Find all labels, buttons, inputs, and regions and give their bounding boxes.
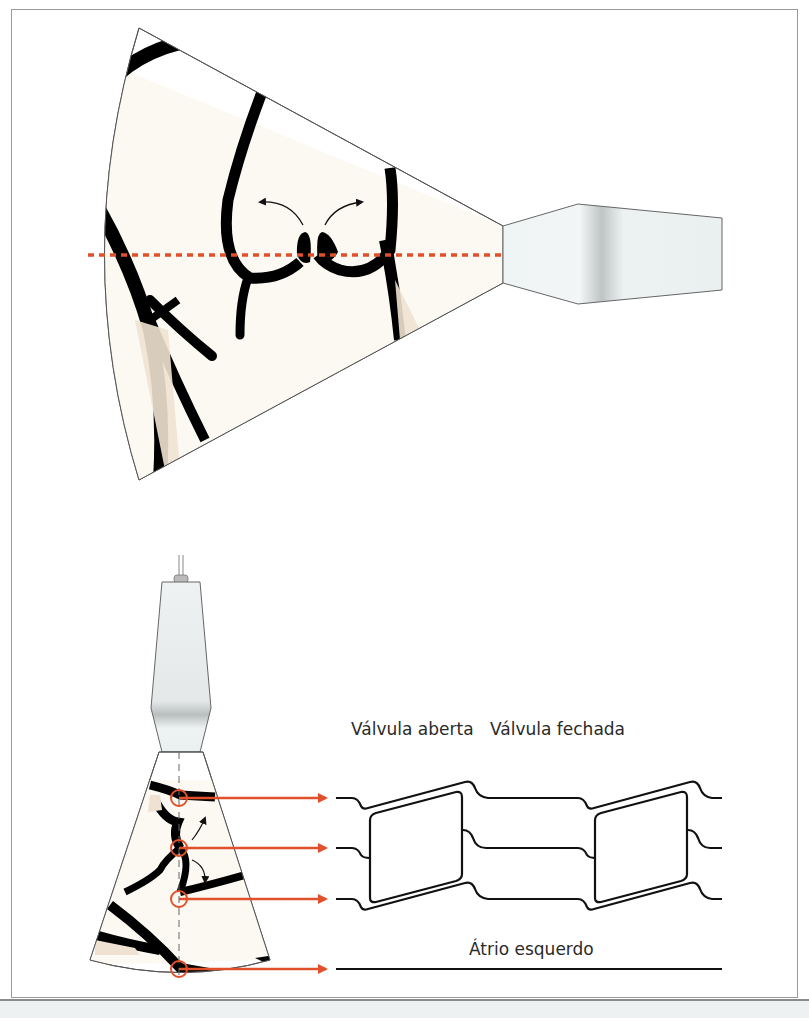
label-valve-closed: Válvula fechada xyxy=(490,719,625,739)
top-probe xyxy=(503,204,722,304)
bottom-probe xyxy=(151,582,211,752)
label-left-atrium: Átrio esquerdo xyxy=(469,939,594,959)
label-valve-open: Válvula aberta xyxy=(351,719,474,739)
footer-strip xyxy=(0,999,809,1018)
bottom-sector xyxy=(85,752,275,975)
